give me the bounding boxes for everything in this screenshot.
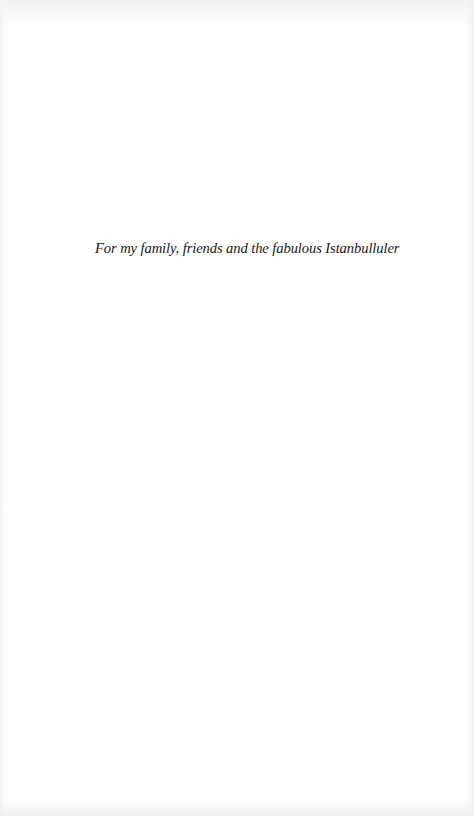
page-edge-shadow-right xyxy=(466,0,474,816)
dedication-text: For my family, friends and the fabulous … xyxy=(95,240,399,256)
page-edge-shadow-left xyxy=(0,0,5,816)
page-edge-shadow-top xyxy=(0,0,474,26)
book-page: For my family, friends and the fabulous … xyxy=(0,0,474,816)
page-edge-shadow-bottom xyxy=(0,796,474,816)
